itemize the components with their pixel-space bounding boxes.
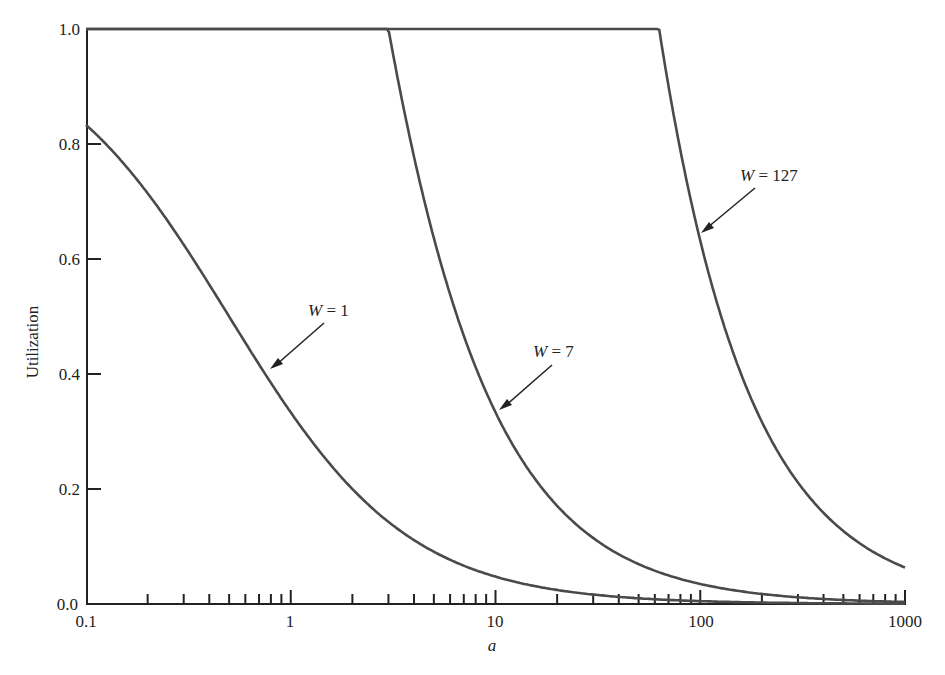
annotation-w127-arrow <box>707 188 755 228</box>
y-tick-label: 1.0 <box>59 20 80 39</box>
annotation-w127: W = 127 <box>701 166 798 233</box>
annotation-w1: W = 1 <box>270 301 349 369</box>
x-axis-title: a <box>488 636 497 655</box>
x-tick-label: 1 <box>286 612 295 631</box>
x-tick-labels: 0.1 1 10 100 1000 <box>75 612 922 631</box>
y-axis-title: Utilization <box>23 305 42 378</box>
curve-w1 <box>86 125 905 604</box>
x-tick-label: 0.1 <box>75 612 96 631</box>
axes <box>86 28 906 605</box>
y-ticks <box>87 144 101 489</box>
curves <box>86 29 905 604</box>
annotation-w127-label: W = 127 <box>740 166 798 185</box>
utilization-chart: 0.0 0.2 0.4 0.6 0.8 1.0 0.1 1 10 100 100… <box>0 0 945 675</box>
y-tick-label: 0.4 <box>59 365 81 384</box>
annotation-w7-label: W = 7 <box>533 342 574 361</box>
curve-w127 <box>86 29 905 568</box>
y-tick-label: 0.2 <box>59 480 80 499</box>
annotation-w1-label: W = 1 <box>308 301 349 320</box>
annotation-w1-arrow <box>276 323 324 365</box>
y-tick-label: 0.8 <box>59 135 80 154</box>
x-tick-label: 10 <box>487 612 504 631</box>
x-tick-label: 1000 <box>888 612 922 631</box>
y-tick-labels: 0.0 0.2 0.4 0.6 0.8 1.0 <box>57 20 81 614</box>
x-tick-label: 100 <box>688 612 714 631</box>
annotation-w7-arrow <box>505 365 552 406</box>
y-tick-label: 0.6 <box>59 250 80 269</box>
curve-w7 <box>86 29 905 602</box>
annotation-w7: W = 7 <box>499 342 574 410</box>
